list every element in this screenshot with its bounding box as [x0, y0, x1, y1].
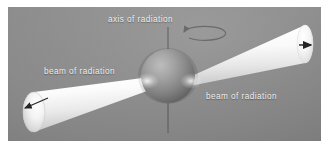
beam-cone-left-cap — [23, 92, 45, 132]
beam-cone-right-body — [185, 25, 313, 87]
illustration-panel: axis of radiation beam of radiation beam… — [8, 7, 321, 141]
rotation-direction-arrow — [184, 26, 226, 40]
beam-emergence-glow-left — [135, 73, 159, 89]
beam-cone-right — [185, 25, 313, 87]
beam-cone-right-cap — [297, 25, 313, 63]
diagram-canvas — [8, 7, 321, 141]
figure-root: axis of radiation beam of radiation beam… — [0, 0, 333, 149]
beam-emergence-glow-right — [180, 73, 202, 89]
